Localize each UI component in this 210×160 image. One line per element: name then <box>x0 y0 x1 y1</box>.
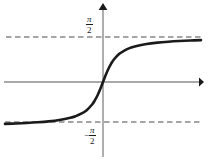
x-axis-arrow-icon <box>199 78 204 87</box>
pi-over-2-fraction: π 2 <box>86 15 93 35</box>
neg-pi-over-2-denominator: 2 <box>89 136 96 146</box>
pi-over-2-numerator: π <box>86 15 93 25</box>
pi-over-2-denominator: 2 <box>86 25 93 35</box>
plot-canvas <box>0 0 210 160</box>
negative-sign: − <box>84 131 89 140</box>
y-axis-arrow-icon <box>99 3 108 10</box>
neg-pi-over-2-fraction: π 2 <box>89 126 96 146</box>
arctan-graph-figure: π 2 − π 2 <box>0 0 210 160</box>
neg-pi-over-2-numerator: π <box>89 126 96 136</box>
lower-asymptote-label: − π 2 <box>84 126 96 146</box>
upper-asymptote-label: π 2 <box>86 15 93 35</box>
